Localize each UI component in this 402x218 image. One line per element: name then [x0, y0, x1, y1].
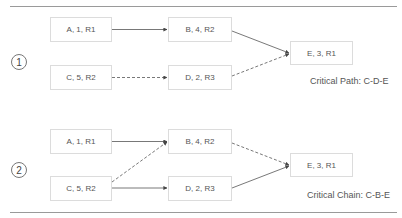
task-label: B, 4, R2	[186, 25, 215, 34]
task-a-2: A, 1, R1	[50, 129, 112, 154]
task-label: E, 3, R1	[307, 161, 336, 170]
scenario-number-text: 2	[16, 165, 22, 176]
scenario-2-number: 2	[11, 162, 27, 178]
task-label: C, 5, R2	[66, 184, 95, 193]
task-label: E, 3, R1	[307, 49, 336, 58]
task-c-2: C, 5, R2	[50, 176, 112, 201]
critical-chain-caption: Critical Chain: C-B-E	[307, 190, 390, 200]
scenario-1-number: 1	[11, 54, 27, 70]
task-b-2: B, 4, R2	[168, 129, 232, 154]
edge-d-e-1	[232, 54, 289, 76]
task-b-1: B, 4, R2	[168, 17, 232, 42]
task-a-1: A, 1, R1	[50, 17, 112, 42]
task-label: A, 1, R1	[67, 25, 96, 34]
scenario-number-text: 1	[16, 57, 22, 68]
task-label: D, 2, R3	[185, 184, 214, 193]
task-label: D, 2, R3	[185, 73, 214, 82]
critical-path-caption: Critical Path: C-D-E	[310, 76, 389, 86]
task-d-2: D, 2, R3	[168, 176, 232, 201]
task-e-1: E, 3, R1	[290, 41, 353, 65]
edge-d-e-2	[232, 166, 289, 188]
edge-b-e-1	[232, 31, 289, 53]
task-c-1: C, 5, R2	[50, 65, 112, 90]
edge-c-b-2	[112, 142, 167, 182]
task-label: B, 4, R2	[186, 137, 215, 146]
task-label: C, 5, R2	[66, 73, 95, 82]
task-e-2: E, 3, R1	[290, 153, 353, 177]
task-d-1: D, 2, R3	[168, 65, 232, 90]
edge-b-e-2	[232, 143, 289, 165]
task-label: A, 1, R1	[67, 137, 96, 146]
